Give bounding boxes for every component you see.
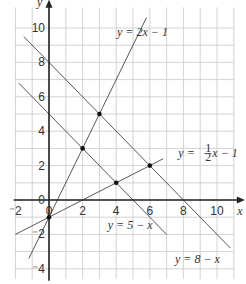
y-tick-label: 4 xyxy=(38,124,45,138)
fraction-denominator: 2 xyxy=(205,150,211,164)
y-tick-label: ⁻4 xyxy=(32,262,45,276)
x-tick-label: 10 xyxy=(210,204,224,218)
y-tick-label: ⁻2 xyxy=(32,227,45,241)
y-axis-arrow-icon xyxy=(46,0,53,8)
label-y-2x-minus-1: y = 2x − 1 xyxy=(116,25,168,39)
x-tick-label: ⁻2 xyxy=(9,204,22,218)
label-y-half-x-minus-1: y = xyxy=(177,146,194,160)
x-tick-label: 4 xyxy=(113,204,120,218)
y-tick-label: 8 xyxy=(38,55,45,69)
y-tick-label: 2 xyxy=(38,159,45,173)
data-point xyxy=(47,215,52,220)
label-y-half-x-minus-1-rest: x − 1 xyxy=(211,146,237,160)
data-point xyxy=(148,163,153,168)
x-axis-arrow-icon xyxy=(237,197,245,204)
data-point xyxy=(97,112,102,117)
y-tick-label: 0 xyxy=(38,193,45,207)
label-y-5-minus-x: y = 5 − x xyxy=(107,218,154,232)
y-tick-label: 10 xyxy=(32,21,46,35)
x-tick-label: 6 xyxy=(146,204,153,218)
data-point xyxy=(114,181,119,186)
line-graph: ⁻2246810⁻4⁻224681000xyy = 2x − 1y = 12x … xyxy=(0,0,246,284)
x-tick-label: 8 xyxy=(180,204,187,218)
x-tick-label: 2 xyxy=(79,204,86,218)
chart-container: ⁻2246810⁻4⁻224681000xyy = 2x − 1y = 12x … xyxy=(0,0,246,284)
y-axis-label: y xyxy=(36,0,43,9)
line-series-4 xyxy=(24,37,231,249)
grid xyxy=(15,7,233,279)
y-tick-label: 6 xyxy=(38,90,45,104)
label-y-8-minus-x: y = 8 − x xyxy=(174,252,221,266)
x-axis-label: x xyxy=(236,204,243,218)
data-point xyxy=(80,146,85,151)
